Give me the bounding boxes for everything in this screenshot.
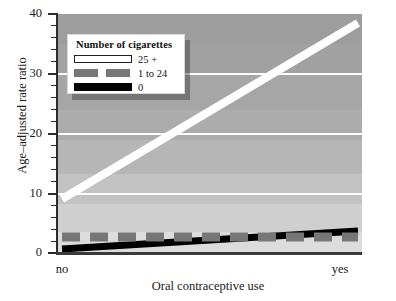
x-tick-label-yes: yes	[310, 262, 370, 277]
y-tick-minor	[51, 241, 56, 242]
y-tick-minor	[51, 157, 56, 158]
y-tick-minor	[51, 109, 56, 110]
legend-label-0: 0	[138, 82, 143, 93]
y-axis-line	[56, 13, 58, 254]
x-axis-line	[56, 252, 362, 255]
y-axis-title: Age–adjusted rate ratio	[15, 41, 30, 191]
y-tick-minor	[51, 37, 56, 38]
x-axis-title: Oral contraceptive use	[118, 279, 298, 294]
y-tick-major-20	[48, 133, 56, 135]
legend-item-1to24: 1 to 24	[74, 67, 179, 79]
y-tick-minor	[51, 217, 56, 218]
y-tick-minor	[51, 97, 56, 98]
y-tick-label-0: 0	[2, 246, 42, 259]
legend-swatch-0	[74, 83, 132, 91]
y-tick-minor	[51, 205, 56, 206]
y-tick-minor	[51, 169, 56, 170]
x-tick-label-no: no	[32, 262, 92, 277]
chart-figure: 40 30 20 10 0 no yes Age–adjusted rate r…	[0, 0, 396, 301]
legend-label-1to24: 1 to 24	[138, 68, 167, 79]
y-tick-minor	[51, 61, 56, 62]
y-tick-minor	[51, 49, 56, 50]
y-tick-major-0	[48, 252, 56, 254]
legend-swatch-1to24	[74, 69, 132, 77]
legend-item-0: 0	[74, 81, 179, 93]
y-tick-minor	[51, 85, 56, 86]
y-tick-minor	[51, 181, 56, 182]
legend: Number of cigarettes 25 + 1 to 24 0	[67, 34, 185, 94]
y-tick-minor	[51, 229, 56, 230]
y-tick-major-10	[48, 193, 56, 195]
y-tick-minor	[51, 121, 56, 122]
y-tick-label-40: 40	[2, 7, 42, 20]
y-tick-minor	[51, 145, 56, 146]
legend-swatch-25plus	[74, 55, 132, 63]
y-tick-major-40	[48, 13, 56, 15]
y-tick-minor	[51, 25, 56, 26]
legend-item-25plus: 25 +	[74, 53, 179, 65]
legend-label-25plus: 25 +	[138, 54, 157, 65]
legend-title: Number of cigarettes	[76, 39, 179, 50]
y-tick-major-30	[48, 73, 56, 75]
